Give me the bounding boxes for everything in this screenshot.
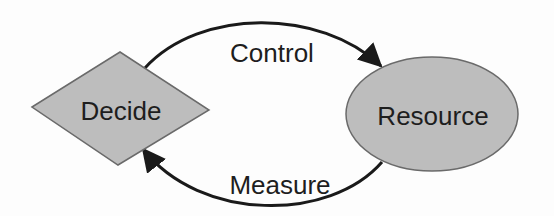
control-label: Control [230,38,314,68]
measure-label: Measure [229,170,330,200]
resource-node: Resource [346,57,518,171]
decide-label: Decide [81,96,162,126]
feedback-loop-diagram: Decide Resource Control Measure [0,0,554,216]
decide-node: Decide [32,52,209,165]
diagram-canvas: Decide Resource Control Measure [0,0,554,216]
resource-label: Resource [377,101,488,131]
